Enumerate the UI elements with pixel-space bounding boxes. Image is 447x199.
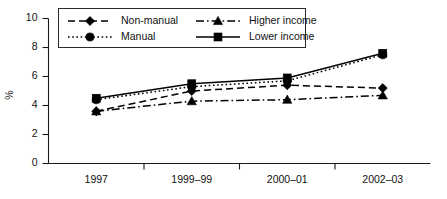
y-axis-ticks <box>43 19 49 164</box>
data-point-square <box>188 80 196 88</box>
series-higher-income <box>96 95 383 111</box>
series-line <box>96 95 383 111</box>
legend-label: Manual <box>121 30 155 42</box>
markers-lower-income <box>92 49 387 102</box>
x-tick-label: 1999–99 <box>171 173 212 185</box>
markers-non-manual <box>92 81 388 116</box>
series-lower-income <box>96 53 383 98</box>
series-manual <box>96 55 383 100</box>
y-tick-label: 8 <box>32 40 38 52</box>
series-line <box>96 55 383 100</box>
data-point-circle <box>86 33 94 41</box>
x-axis-tick-labels: 19971999–992000–012002–03 <box>85 173 404 185</box>
legend-label: Lower income <box>249 30 315 42</box>
series-line <box>96 53 383 98</box>
chart-canvas: 0246810 % 19971999–992000–012002–03 Non-… <box>0 0 447 199</box>
data-point-square <box>379 49 387 57</box>
legend-label: Higher income <box>249 14 317 26</box>
x-tick-label: 2002–03 <box>362 173 403 185</box>
line-chart: 0246810 % 19971999–992000–012002–03 Non-… <box>0 0 447 199</box>
markers-manual <box>92 51 387 104</box>
data-point-square <box>283 74 291 82</box>
x-tick-label: 2000–01 <box>267 173 308 185</box>
y-tick-label: 10 <box>26 11 38 23</box>
chart-legend: Non-manualHigher incomeManualLower incom… <box>59 9 317 48</box>
y-tick-label: 4 <box>32 98 38 110</box>
series-layer <box>92 49 388 116</box>
y-tick-label: 0 <box>32 156 38 168</box>
y-tick-label: 6 <box>32 69 38 81</box>
data-point-square <box>214 33 222 41</box>
x-tick-label: 1997 <box>85 173 109 185</box>
y-axis-title: % <box>3 90 15 99</box>
legend-label: Non-manual <box>121 14 178 26</box>
data-point-square <box>92 94 100 102</box>
markers-higher-income <box>92 91 388 115</box>
y-tick-label: 2 <box>32 127 38 139</box>
y-axis-tick-labels: 0246810 <box>26 11 38 168</box>
x-axis-ticks <box>144 164 335 170</box>
